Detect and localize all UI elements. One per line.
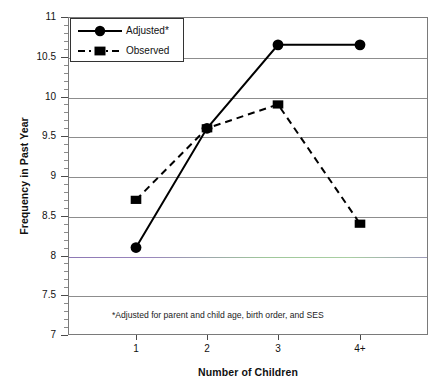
series-adjusted: [131, 39, 366, 253]
data-point-square: [273, 100, 284, 108]
y-tick-major: [61, 17, 68, 18]
legend-label-adjusted: Adjusted*: [126, 25, 169, 36]
circle-marker-icon: [76, 21, 124, 41]
data-point-square: [355, 220, 366, 228]
y-tick-major: [61, 335, 68, 336]
x-tick: [360, 335, 361, 340]
y-tick-label: 7.5: [8, 290, 56, 300]
x-tick: [278, 335, 279, 340]
y-tick-label: 9.5: [8, 131, 56, 141]
x-tick-label: 3: [258, 343, 298, 354]
y-tick-label: 7: [8, 330, 56, 340]
y-tick-label: 10.5: [8, 52, 56, 62]
data-point-circle: [273, 39, 284, 50]
y-tick-major: [61, 136, 68, 137]
chart-footnote: *Adjusted for parent and child age, birt…: [112, 310, 324, 320]
x-tick: [207, 335, 208, 340]
y-tick-major: [61, 57, 68, 58]
chart-container: Frequency in Past Year 1110.5109.598.587…: [0, 0, 438, 389]
x-tick-label: 2: [187, 343, 227, 354]
y-tick-major: [61, 216, 68, 217]
series-observed: [131, 100, 366, 227]
x-axis-title: Number of Children: [68, 366, 428, 378]
y-tick-major: [61, 256, 68, 257]
data-point-circle: [131, 242, 142, 253]
data-point-square: [131, 196, 142, 204]
legend-label-observed: Observed: [126, 45, 169, 56]
data-point-square: [202, 124, 213, 132]
data-series-layer: [68, 17, 428, 335]
series-line: [136, 104, 360, 223]
y-tick-major: [61, 176, 68, 177]
x-tick: [136, 335, 137, 340]
legend-entry-adjusted: Adjusted*: [71, 21, 183, 41]
series-line: [136, 45, 360, 248]
y-tick-label: 11: [8, 12, 56, 22]
legend-entry-observed: Observed: [71, 41, 183, 61]
y-tick-major: [61, 97, 68, 98]
legend: Adjusted* Observed: [70, 18, 184, 62]
x-tick-label: 4+: [340, 343, 380, 354]
square-marker-icon: [76, 41, 124, 61]
y-tick-label: 8: [8, 251, 56, 261]
y-tick-major: [61, 295, 68, 296]
y-tick-label: 8.5: [8, 211, 56, 221]
y-tick-label: 10: [8, 92, 56, 102]
y-tick-label: 9: [8, 171, 56, 181]
x-tick-label: 1: [116, 343, 156, 354]
data-point-circle: [355, 39, 366, 50]
